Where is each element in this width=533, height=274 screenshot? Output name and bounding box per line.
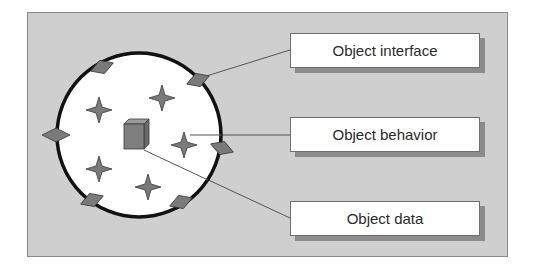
label-object-behavior: Object behavior (290, 117, 480, 152)
connector-interface (200, 50, 290, 78)
cube-icon (124, 119, 149, 149)
label-object-interface: Object interface (290, 33, 480, 68)
label-object-data: Object data (290, 201, 480, 236)
